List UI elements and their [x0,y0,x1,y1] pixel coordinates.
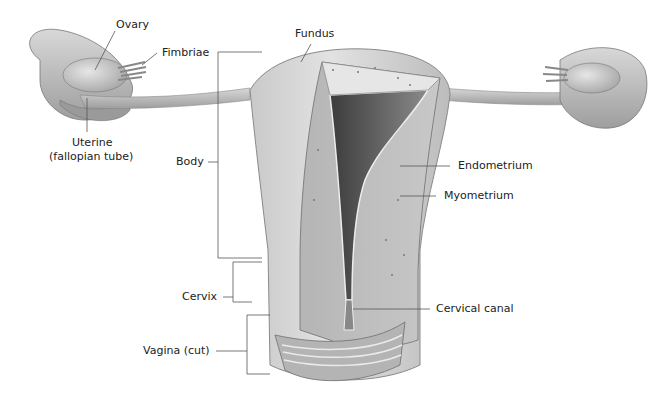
label-cervix: Cervix [182,290,217,303]
left-ovary [63,58,127,92]
label-endometrium: Endometrium [458,159,533,172]
uterus-illustration [0,0,668,397]
label-uterine: Uterine [72,136,112,149]
right-ovary [564,63,620,93]
label-myometrium: Myometrium [444,189,514,202]
label-body: Body [176,155,204,168]
label-fimbriae: Fimbriae [162,46,209,59]
label-fallopian-tube: (fallopian tube) [49,150,133,163]
cervical-canal [344,300,354,330]
label-ovary: Ovary [116,18,149,31]
label-cervical-canal: Cervical canal [436,302,513,315]
left-fallopian-tube [30,29,250,120]
label-fundus: Fundus [295,27,334,40]
label-vagina: Vagina (cut) [143,344,210,357]
right-fallopian-tube [440,48,647,129]
